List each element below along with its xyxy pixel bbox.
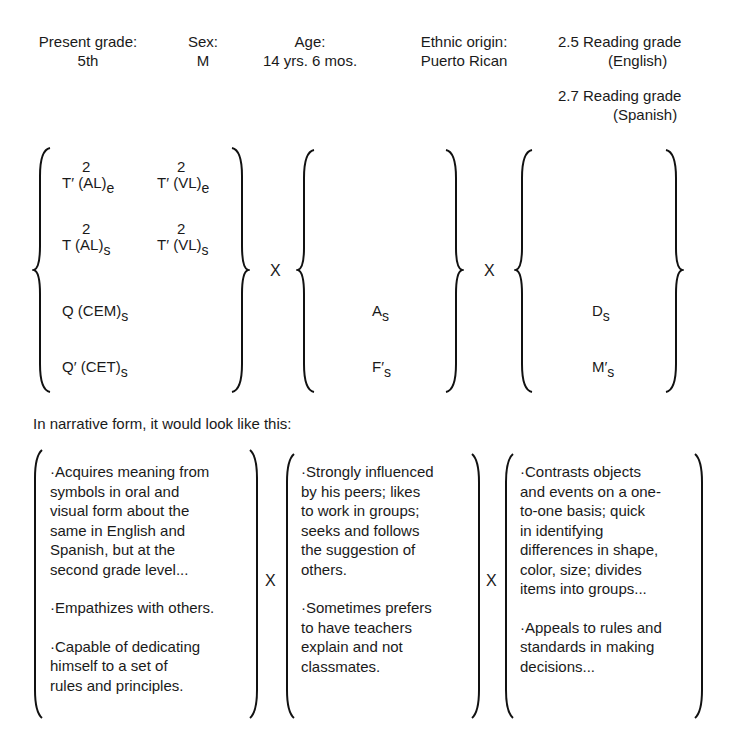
left-brace-set3-icon [514,148,534,394]
present-grade-label: Present grade: [28,32,148,51]
term-d-s: Ds [592,302,610,324]
ethnic-origin-label: Ethnic origin: [404,32,524,51]
left-paren-col3-icon [503,452,515,720]
term-q-cem-s: Q (CEM)s [62,302,128,324]
narrative-multiply-operator-2: X [486,572,497,590]
ethnic-origin-value: Puerto Rican [404,51,524,70]
age-block: Age: 14 yrs. 6 mos. [250,32,370,70]
narrative-column-3: ·Contrasts objectsand events on a one-to… [520,462,700,695]
reading-english-language: (English) [558,51,708,70]
sex-value: M [170,51,236,70]
term-m-prime-s: M′s [592,358,614,380]
age-value: 14 yrs. 6 mos. [250,51,370,70]
left-brace-set2-icon [296,148,316,394]
narrative-intro: In narrative form, it would look like th… [33,415,291,432]
reading-english-block: 2.5 Reading grade (English) [558,32,708,70]
sex-label: Sex: [170,32,236,51]
present-grade-value: 5th [28,51,148,70]
reading-spanish-block: 2.7 Reading grade (Spanish) [558,86,708,124]
narrative-column-2: ·Strongly influencedby his peers; likest… [301,462,476,695]
term-t-al-s: 2T (AL)s [62,236,110,258]
term-a-s: As [372,302,389,324]
present-grade-block: Present grade: 5th [28,32,148,70]
narrative-item: ·Strongly influencedby his peers; likest… [301,462,476,579]
right-brace-set2-icon [444,148,464,394]
narrative-multiply-operator-1: X [265,572,276,590]
multiply-operator-2: X [484,262,495,280]
right-brace-set1-icon [230,146,250,394]
reading-spanish-grade: 2.7 Reading grade [558,86,708,105]
ethnic-origin-block: Ethnic origin: Puerto Rican [404,32,524,70]
narrative-column-1: ·Acquires meaning fromsymbols in oral an… [50,462,250,714]
narrative-item: ·Contrasts objectsand events on a one-to… [520,462,700,599]
narrative-item: ·Acquires meaning fromsymbols in oral an… [50,462,250,579]
multiply-operator-1: X [270,262,281,280]
left-paren-col2-icon [284,452,296,720]
narrative-item: ·Empathizes with others. [50,598,250,618]
reading-spanish-language: (Spanish) [558,105,708,124]
sex-block: Sex: M [170,32,236,70]
term-f-prime-s: F′s [372,358,391,380]
reading-english-grade: 2.5 Reading grade [558,32,708,51]
term-t-prime-al-e: 2T′ (AL)e [62,174,114,196]
term-t-prime-vl-s: 2T′ (VL)s [157,236,208,258]
age-label: Age: [250,32,370,51]
term-q-prime-cet-s: Q′ (CET)s [62,358,128,380]
right-brace-set3-icon [664,148,684,394]
term-t-prime-vl-e: 2T′ (VL)e [157,174,209,196]
left-paren-col1-icon [32,448,44,720]
narrative-item: ·Sometimes prefersto have teachersexplai… [301,598,476,676]
narrative-item: ·Capable of dedicatinghimself to a set o… [50,637,250,696]
narrative-item: ·Appeals to rules andstandards in making… [520,618,700,677]
left-brace-set1-icon [32,146,52,394]
